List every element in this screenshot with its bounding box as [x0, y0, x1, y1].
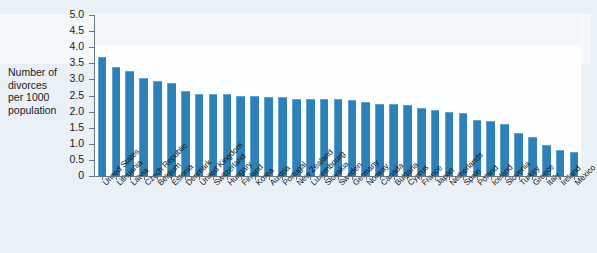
- y-axis-tick-label: 1.5: [44, 121, 84, 133]
- bar-highlight-cap: [126, 71, 134, 72]
- bar-highlight-cap: [168, 83, 176, 84]
- bar-highlight-cap: [154, 81, 162, 82]
- bar-highlight-cap: [362, 102, 370, 103]
- bar-highlight-cap: [543, 145, 551, 146]
- bar-highlight-cap: [487, 121, 495, 122]
- y-axis-tick-label: 4.0: [44, 40, 84, 52]
- bar-highlight-cap: [279, 97, 287, 98]
- bar-highlight-cap: [251, 96, 259, 97]
- bar-highlight-cap: [501, 124, 509, 125]
- bar-highlight-cap: [265, 97, 273, 98]
- bar-highlight-cap: [418, 108, 426, 109]
- bar-highlight-cap: [113, 67, 121, 68]
- bar-highlight-cap: [515, 133, 523, 134]
- bar-highlight-cap: [446, 112, 454, 113]
- y-axis-tick-label: 4.5: [44, 24, 84, 36]
- x-axis-line: [94, 176, 581, 177]
- y-axis-tick-label: 2.0: [44, 105, 84, 117]
- bar-highlight-cap: [432, 110, 440, 111]
- bar-highlight-cap: [557, 150, 565, 151]
- y-axis-tick-label: 2.5: [44, 89, 84, 101]
- bar-highlight-cap: [349, 100, 357, 101]
- bar-highlight-cap: [99, 57, 107, 58]
- bar-highlight-cap: [321, 99, 329, 100]
- bar-highlight-cap: [210, 94, 218, 95]
- bar-highlight-cap: [196, 94, 204, 95]
- y-axis-tick-label: 5.0: [44, 8, 84, 20]
- bar-highlight-cap: [404, 105, 412, 106]
- bar: [264, 97, 273, 176]
- bar: [112, 67, 121, 176]
- bar-highlight-cap: [335, 99, 343, 100]
- plot-area-top-shade: [95, 15, 581, 45]
- bar-highlight-cap: [293, 99, 301, 100]
- bar-highlight-cap: [224, 94, 232, 95]
- bar-highlight-cap: [390, 104, 398, 105]
- y-axis-tick-label: 3.0: [44, 72, 84, 84]
- y-axis-tick-label: 0: [44, 169, 84, 181]
- bar-highlight-cap: [529, 137, 537, 138]
- bar-highlight-cap: [474, 120, 482, 121]
- y-axis-tick-label: 0.5: [44, 153, 84, 165]
- bar: [98, 57, 107, 176]
- bar-highlight-cap: [376, 104, 384, 105]
- bar-highlight-cap: [140, 78, 148, 79]
- y-axis-tick-label: 1.0: [44, 137, 84, 149]
- bar-highlight-cap: [237, 96, 245, 97]
- bar-highlight-cap: [460, 113, 468, 114]
- y-axis-tick-label: 3.5: [44, 56, 84, 68]
- bar-highlight-cap: [182, 91, 190, 92]
- y-axis-line: [94, 15, 95, 177]
- bar-highlight-cap: [307, 99, 315, 100]
- bar-highlight-cap: [571, 152, 579, 153]
